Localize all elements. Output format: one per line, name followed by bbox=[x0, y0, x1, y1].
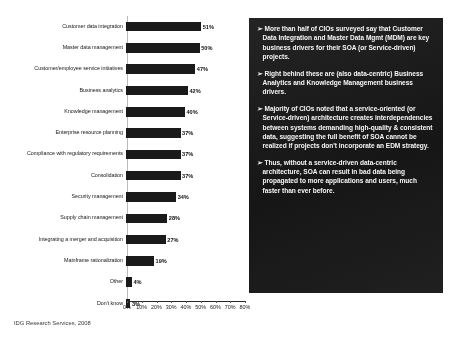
bar bbox=[126, 107, 185, 117]
bar bbox=[126, 64, 195, 74]
x-axis-tick-label: 10% bbox=[136, 304, 147, 310]
bar-row-list: Customer data integration51%Master data … bbox=[0, 16, 248, 314]
bar bbox=[126, 43, 200, 53]
bar-value-label: 37% bbox=[182, 151, 193, 157]
bar-plot-area: 40% bbox=[126, 101, 248, 122]
bar-plot-area: 37% bbox=[126, 144, 248, 165]
commentary-paragraph: ➢Thus, without a service-driven data-cen… bbox=[257, 158, 436, 195]
bar-plot-area: 51% bbox=[126, 16, 248, 37]
bar-row: Business analytics42% bbox=[0, 80, 248, 101]
x-axis-tick-label: 80% bbox=[240, 304, 251, 310]
bar bbox=[126, 192, 176, 202]
bar-plot-area: 34% bbox=[126, 186, 248, 207]
bar-row: Customer/employee service initiatives47% bbox=[0, 59, 248, 80]
bar-category-label: Master data management bbox=[0, 45, 126, 51]
bar-plot-area: 28% bbox=[126, 208, 248, 229]
x-axis-tickmark bbox=[216, 301, 217, 303]
x-axis-tickmark bbox=[230, 301, 231, 303]
x-axis-tickmark bbox=[157, 301, 158, 303]
bar bbox=[126, 150, 181, 160]
bar-category-label: Don't know bbox=[0, 301, 126, 307]
bar-plot-area: 37% bbox=[126, 165, 248, 186]
bar-category-label: Customer/employee service initiatives bbox=[0, 66, 126, 72]
x-axis-tick-label: 70% bbox=[225, 304, 236, 310]
commentary-paragraph: ➢Majority of CIOs noted that a service-o… bbox=[257, 104, 436, 150]
bar-row: Supply chain management28% bbox=[0, 208, 248, 229]
bar-category-label: Mainframe rationalization bbox=[0, 258, 126, 264]
bar bbox=[126, 256, 154, 266]
commentary-text: Thus, without a service-driven data-cent… bbox=[263, 159, 417, 194]
bar-plot-area: 50% bbox=[126, 37, 248, 58]
bar-value-label: 27% bbox=[167, 237, 178, 243]
bar-value-label: 28% bbox=[169, 215, 180, 221]
bar-row: Master data management50% bbox=[0, 37, 248, 58]
bar-value-label: 51% bbox=[203, 24, 214, 30]
arrow-bullet-icon: ➢ bbox=[257, 25, 263, 32]
x-axis-tick-label: 40% bbox=[181, 304, 192, 310]
bar-value-label: 19% bbox=[156, 258, 167, 264]
bar-row: Other4% bbox=[0, 272, 248, 293]
bar-value-label: 4% bbox=[133, 279, 141, 285]
commentary-panel: ➢More than half of CIOs surveyed say tha… bbox=[249, 18, 443, 293]
x-axis-tickmark bbox=[171, 301, 172, 303]
x-axis-tickmark bbox=[245, 301, 246, 303]
bar-value-label: 50% bbox=[201, 45, 212, 51]
bar-plot-area: 37% bbox=[126, 122, 248, 143]
x-axis-tick-label: 30% bbox=[166, 304, 177, 310]
bar-value-label: 47% bbox=[197, 66, 208, 72]
bar-row: Compliance with regulatory requirements3… bbox=[0, 144, 248, 165]
source-note: IDG Research Services, 2008 bbox=[14, 320, 91, 326]
bar-chart: Customer data integration51%Master data … bbox=[0, 0, 248, 318]
bar-category-label: Consolidation bbox=[0, 173, 126, 179]
bar bbox=[126, 86, 188, 96]
bar-category-label: Compliance with regulatory requirements bbox=[0, 151, 126, 157]
bar bbox=[126, 235, 166, 245]
x-axis-tickmark bbox=[142, 301, 143, 303]
arrow-bullet-icon: ➢ bbox=[257, 70, 263, 77]
bar-category-label: Customer data integration bbox=[0, 24, 126, 30]
arrow-bullet-icon: ➢ bbox=[257, 159, 263, 166]
bar bbox=[126, 214, 167, 224]
x-axis-tickmark bbox=[127, 301, 128, 303]
bar-category-label: Integrating a merger and acquisition bbox=[0, 237, 126, 243]
x-axis-tick-label: 50% bbox=[195, 304, 206, 310]
bar-value-label: 37% bbox=[182, 130, 193, 136]
x-axis-tickmark bbox=[186, 301, 187, 303]
commentary-paragraph: ➢More than half of CIOs surveyed say tha… bbox=[257, 24, 436, 61]
bar-category-label: Supply chain management bbox=[0, 215, 126, 221]
bar-row: Integrating a merger and acquisition27% bbox=[0, 229, 248, 250]
commentary-text: Right behind these are (also data-centri… bbox=[263, 70, 424, 96]
bar-row: Customer data integration51% bbox=[0, 16, 248, 37]
bar-value-label: 42% bbox=[189, 88, 200, 94]
arrow-bullet-icon: ➢ bbox=[257, 105, 263, 112]
bar-plot-area: 47% bbox=[126, 59, 248, 80]
bar-category-label: Knowledge management bbox=[0, 109, 126, 115]
commentary-text: Majority of CIOs noted that a service-or… bbox=[263, 105, 433, 149]
bar-category-label: Other bbox=[0, 279, 126, 285]
bar-value-label: 37% bbox=[182, 173, 193, 179]
x-axis-tickmark bbox=[201, 301, 202, 303]
bar-row: Mainframe rationalization19% bbox=[0, 250, 248, 271]
bar-plot-area: 27% bbox=[126, 229, 248, 250]
bar-plot-area: 42% bbox=[126, 80, 248, 101]
x-axis-tick-label: 60% bbox=[210, 304, 221, 310]
bar bbox=[126, 277, 132, 287]
slide-canvas: Customer data integration51%Master data … bbox=[0, 0, 452, 343]
bar bbox=[126, 128, 181, 138]
bar bbox=[126, 22, 201, 32]
bar-plot-area: 19% bbox=[126, 250, 248, 271]
x-axis-tick-label: 0% bbox=[123, 304, 131, 310]
bar-row: Knowledge management40% bbox=[0, 101, 248, 122]
bar-row: Security management34% bbox=[0, 186, 248, 207]
x-axis-tick-label: 20% bbox=[151, 304, 162, 310]
bar-category-label: Business analytics bbox=[0, 88, 126, 94]
commentary-paragraph: ➢Right behind these are (also data-centr… bbox=[257, 69, 436, 97]
bar-category-label: Security management bbox=[0, 194, 126, 200]
commentary-text: More than half of CIOs surveyed say that… bbox=[263, 25, 430, 60]
bar-row: Enterprise resource planning37% bbox=[0, 122, 248, 143]
bar-row: Consolidation37% bbox=[0, 165, 248, 186]
x-axis-tick-labels: 0%10%20%30%40%50%60%70%80% bbox=[127, 304, 252, 316]
bar-category-label: Enterprise resource planning bbox=[0, 130, 126, 136]
bar-value-label: 34% bbox=[178, 194, 189, 200]
bar bbox=[126, 171, 181, 181]
